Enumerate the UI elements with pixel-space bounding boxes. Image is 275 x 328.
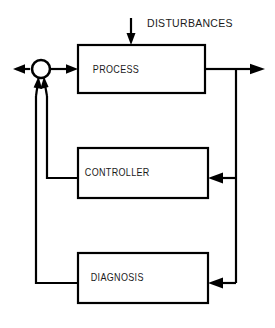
diagnosis-feedback-arrow-group — [34, 77, 43, 97]
disturbances-signal-group — [127, 18, 136, 45]
process-block-label: PROCESS — [93, 63, 139, 75]
diagnosis-to-junction-wire — [36, 96, 78, 283]
summing-junction-circle — [32, 60, 50, 78]
junction-to-process-arrow-head — [66, 64, 78, 74]
bus-to-controller-group — [208, 173, 236, 184]
controller-feedback-arrow-group — [40, 77, 48, 97]
bus-to-controller-arrow-head — [208, 173, 223, 184]
process-external-output-arrow-head — [250, 64, 265, 74]
process-external-output-group — [236, 64, 265, 74]
junction-left-output-group — [13, 64, 30, 74]
controller-block-label: CONTROLLER — [85, 166, 150, 178]
diagnosis-block-label: DIAGNOSIS — [91, 271, 144, 283]
block-diagram-svg: DISTURBANCES PROCESS — [0, 0, 275, 328]
bus-to-diagnosis-arrow-head — [208, 278, 223, 289]
junction-left-output-arrow-head — [13, 64, 25, 74]
disturbances-label: DISTURBANCES — [147, 17, 233, 29]
junction-to-process-group — [50, 64, 78, 74]
controller-to-junction-wire — [47, 96, 78, 178]
disturbances-arrow-head — [127, 33, 136, 45]
bus-to-diagnosis-group — [208, 278, 236, 289]
block-diagram-canvas: DISTURBANCES PROCESS — [0, 0, 275, 328]
